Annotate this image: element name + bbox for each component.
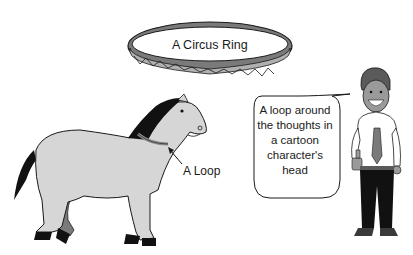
horse-icon <box>14 94 206 246</box>
horse-loop-label: A Loop <box>183 164 220 178</box>
speech-bubble-text: A loop around the thoughts in a cartoon … <box>256 103 334 178</box>
cartoon-man-icon <box>352 68 401 236</box>
circus-ring-label: A Circus Ring <box>172 38 248 52</box>
